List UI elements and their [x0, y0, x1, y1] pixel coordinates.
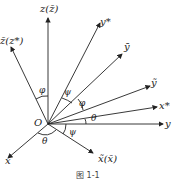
ybar-axis-label: ȳ [123, 41, 130, 52]
xtilde-axis-label: x̃(x̄) [98, 153, 117, 164]
phi-top-label: φ [39, 85, 46, 95]
psi-bottom-label: ψ [69, 127, 77, 137]
phi-top-arc [36, 96, 48, 99]
theta-right-label: θ [91, 113, 97, 123]
xstar-axis-label: x* [159, 100, 170, 111]
figure-caption: 图 1-1 [76, 171, 100, 180]
z-axis-label: z(z̄) [39, 3, 58, 14]
xstar-axis [48, 107, 157, 124]
psi-top-label: ψ [64, 87, 72, 97]
theta-bottom-label: θ [42, 136, 48, 146]
phi-mid-label: φ [79, 98, 86, 108]
theta-right-arc [85, 119, 86, 124]
origin-label: O [34, 117, 42, 128]
psi-top-arc [62, 98, 72, 103]
x-axis-label: x [5, 155, 11, 166]
ybar-axis [48, 54, 122, 124]
ystar-axis [48, 23, 100, 124]
psi-bottom-arc [63, 124, 66, 134]
y-axis-label: y [164, 118, 171, 129]
ytilde-axis-label: ỹ [150, 77, 157, 88]
ystar-axis-label: y* [99, 16, 111, 27]
rotation-axes-diagram: z(z̄) z̄(z*) y* ȳ ỹ x* y x̃(x̄) x O φ ψ … [0, 0, 174, 181]
zbar-axis-label: z̄(z*) [0, 35, 23, 46]
